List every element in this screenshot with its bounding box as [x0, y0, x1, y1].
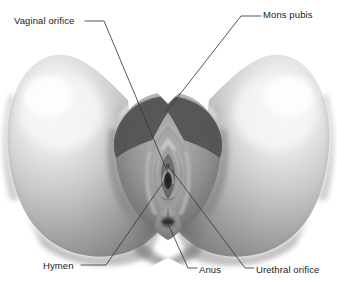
label-vaginal-orifice: Vaginal orifice — [14, 15, 74, 26]
urethral-opening — [166, 163, 170, 169]
label-mons-pubis: Mons pubis — [263, 9, 313, 20]
label-anus: Anus — [199, 264, 221, 275]
label-urethral-orifice: Urethral orifice — [256, 264, 319, 275]
vulva-illustration — [0, 0, 337, 281]
anatomical-figure: Vaginal orifice Mons pubis Hymen Anus Ur… — [0, 0, 337, 281]
label-hymen: Hymen — [43, 260, 74, 271]
